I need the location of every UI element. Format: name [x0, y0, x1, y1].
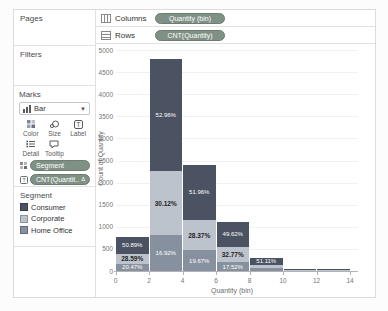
y-axis-tick-label: 1500	[96, 201, 113, 208]
y-axis-tick-label: 2000	[96, 179, 113, 186]
corporate-swatch	[20, 215, 28, 223]
x-axis-tick-label: 0	[108, 277, 124, 284]
marks-card: Marks Bar ▼ Color	[14, 86, 95, 187]
mark-type-dropdown[interactable]: Bar ▼	[19, 102, 90, 115]
y-axis-tick-label: 4500	[96, 69, 113, 76]
chevron-down-icon: ▼	[80, 106, 86, 112]
bar-segment-consumer[interactable]: 52.96%	[150, 59, 183, 171]
label-button-label: Label	[70, 130, 86, 137]
bar-segment-home-office[interactable]: 17.52%	[217, 262, 250, 271]
rows-shelf[interactable]: Rows CNT(Quantity)	[96, 27, 375, 44]
home-office-label: Home Office	[31, 226, 73, 235]
gridline	[116, 50, 359, 51]
x-axis-title: Quantity (bin)	[172, 287, 292, 294]
cnt-quantity-pill[interactable]: CNT(Quantity)	[155, 30, 225, 41]
marks-pill-row-cnt: T CNT(Quantit.. Δ	[19, 174, 90, 185]
corporate-label: Corporate	[31, 214, 64, 223]
segment-percent-label: 50.89%	[122, 242, 142, 248]
y-axis-tick-label: 2500	[96, 157, 113, 164]
histogram-chart: Count of Quantity Quantity (bin) 0500100…	[96, 44, 375, 297]
filters-label: Filters	[20, 50, 89, 59]
bar-segment-consumer[interactable]	[317, 269, 350, 270]
x-axis-tick-label: 8	[242, 277, 258, 284]
segment-percent-label: 32.77%	[222, 251, 244, 258]
bar-segment-home-office[interactable]: 19.67%	[183, 250, 216, 271]
x-axis-tick	[116, 272, 117, 275]
svg-text:T: T	[76, 121, 81, 128]
size-button-label: Size	[48, 130, 61, 137]
home-office-swatch	[20, 226, 28, 234]
cnt-quantity-marks-pill[interactable]: CNT(Quantit.. Δ	[30, 174, 90, 185]
detail-button[interactable]: Detail	[19, 139, 43, 157]
filters-shelf[interactable]: Filters	[14, 46, 95, 86]
side-panel: Pages Filters Marks Bar ▼ Color	[14, 10, 96, 297]
y-axis-tick-label: 3500	[96, 113, 113, 120]
bar-segment-consumer[interactable]: 49.62%	[217, 222, 250, 246]
color-icon	[27, 119, 35, 129]
bar-segment-corporate[interactable]: 30.12%	[150, 171, 183, 235]
columns-shelf-icon	[101, 14, 111, 23]
segment-percent-label: 49.62%	[223, 231, 243, 237]
mark-type-value: Bar	[34, 104, 46, 113]
y-axis-tick-label: 1000	[96, 223, 113, 230]
legend-item-consumer[interactable]: Consumer	[20, 203, 89, 212]
bar-segment-consumer[interactable]	[284, 269, 317, 270]
color-button[interactable]: Color	[19, 119, 43, 137]
consumer-swatch	[20, 203, 28, 211]
bar-segment-corporate[interactable]: 32.77%	[217, 247, 250, 263]
segment-percent-label: 52.96%	[156, 112, 176, 118]
segment-percent-label: 51.96%	[189, 189, 209, 195]
tooltip-icon	[49, 139, 59, 149]
marks-buttons: Color Size T Label	[19, 119, 90, 157]
bar-segment-corporate[interactable]: 28.37%	[183, 220, 216, 250]
y-axis-tick-label: 4000	[96, 91, 113, 98]
x-axis-tick	[216, 272, 217, 275]
bar-segment-consumer[interactable]: 50.89%	[116, 237, 149, 255]
marks-pill-row-segment: Segment	[19, 160, 90, 171]
consumer-label: Consumer	[31, 203, 66, 212]
legend-item-home-office[interactable]: Home Office	[20, 226, 89, 235]
x-axis-tick	[350, 272, 351, 275]
segment-percent-label: 20.47%	[122, 264, 142, 270]
segment-percent-label: 28.37%	[188, 232, 210, 239]
tooltip-button[interactable]: Tooltip	[43, 139, 67, 157]
x-axis-tick	[149, 272, 150, 275]
detail-button-label: Detail	[23, 150, 40, 157]
x-axis-tick-label: 10	[275, 277, 291, 284]
columns-shelf[interactable]: Columns Quantity (bin)	[96, 10, 375, 27]
segment-percent-label: 51.11%	[256, 258, 276, 264]
label-icon: T	[74, 119, 83, 129]
segment-percent-label: 28.59%	[121, 255, 143, 262]
bar-segment-home-office[interactable]: 16.92%	[150, 235, 183, 271]
size-button[interactable]: Size	[43, 119, 67, 137]
segment-pill[interactable]: Segment	[30, 160, 90, 171]
rows-shelf-label: Rows	[115, 31, 151, 40]
rows-shelf-icon	[101, 31, 111, 40]
size-icon	[49, 119, 59, 129]
x-axis-tick-label: 6	[208, 277, 224, 284]
svg-text:T: T	[22, 177, 26, 183]
bar-segment-corporate[interactable]: 28.59%	[116, 254, 149, 264]
y-axis-tick-label: 500	[96, 245, 113, 252]
y-axis-tick-label: 3000	[96, 135, 113, 142]
bar-segment-home-office[interactable]: 20.47%	[116, 264, 149, 271]
bar-segment-consumer[interactable]: 51.11%	[250, 258, 283, 265]
segment-pill-label: Segment	[36, 160, 64, 171]
x-axis-tick-label: 14	[342, 277, 358, 284]
cnt-pill-label: CNT(Quantit..	[36, 174, 79, 185]
pages-shelf[interactable]: Pages	[14, 10, 95, 46]
x-axis-tick-label: 12	[309, 277, 325, 284]
shelves: Columns Quantity (bin) Rows CNT(Quantity…	[96, 10, 375, 44]
x-axis-line	[114, 271, 359, 272]
x-axis-tick-label: 4	[175, 277, 191, 284]
label-button[interactable]: T Label	[66, 119, 90, 137]
bar-segment-corporate[interactable]	[250, 265, 283, 269]
quantity-bin-pill[interactable]: Quantity (bin)	[155, 13, 225, 24]
label-role-icon: T	[19, 176, 28, 184]
x-axis-tick	[283, 272, 284, 275]
y-axis-tick-label: 5000	[96, 47, 113, 54]
bar-segment-consumer[interactable]: 51.96%	[183, 165, 216, 220]
legend-item-corporate[interactable]: Corporate	[20, 214, 89, 223]
tooltip-button-label: Tooltip	[45, 150, 64, 157]
x-axis-tick	[250, 272, 251, 275]
